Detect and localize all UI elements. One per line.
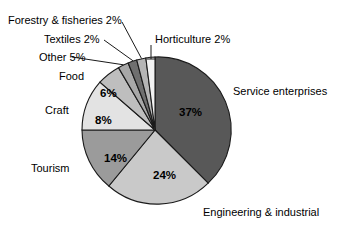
label-service-enterprises: Service enterprises — [233, 85, 327, 97]
value-tourism: 14% — [104, 152, 127, 164]
label-tourism: Tourism — [31, 162, 70, 174]
label-horticulture: Horticulture 2% — [155, 33, 230, 45]
value-engineering-industrial: 24% — [153, 169, 176, 181]
label-textiles: Textiles 2% — [44, 33, 100, 45]
label-food: Food — [59, 70, 84, 82]
pie-chart: Forestry & fisheries 2% Textiles 2% Othe… — [0, 0, 347, 232]
value-craft: 8% — [95, 114, 112, 126]
label-engineering-industrial: Engineering & industrial — [203, 206, 319, 218]
leader-line-forestry — [122, 22, 142, 59]
pie-slices — [82, 57, 231, 204]
value-food: 6% — [100, 87, 117, 99]
value-service-enterprises: 37% — [179, 106, 202, 118]
label-forestry-fisheries: Forestry & fisheries 2% — [8, 14, 122, 26]
label-other: Other 5% — [39, 51, 85, 63]
leader-line-textiles — [104, 40, 133, 61]
label-craft: Craft — [45, 104, 69, 116]
